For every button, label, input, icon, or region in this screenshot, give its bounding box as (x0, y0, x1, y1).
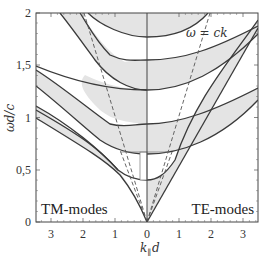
x-tick-tm-1: 1 (112, 227, 118, 241)
te-modes-label: TE-modes (192, 201, 255, 217)
y-tick-1: 1 (25, 111, 31, 125)
y-tick-1-5: 1,5 (16, 58, 31, 72)
x-tick-te-1: 1 (176, 227, 182, 241)
x-tick-tm-2: 2 (80, 227, 86, 241)
x-tick-te-3: 3 (240, 227, 246, 241)
y-tick-0-5: 0,5 (16, 163, 31, 177)
plot-area (36, 13, 258, 222)
light-line-label: ω = ck (186, 26, 227, 40)
gap-marker (140, 152, 147, 180)
tm-modes-label: TM-modes (41, 201, 108, 217)
tm-band-4 (88, 13, 147, 37)
y-tick-2: 2 (25, 6, 31, 20)
y-axis-title: ωd/c (3, 104, 17, 133)
x-tick-0: 0 (144, 227, 150, 241)
x-tick-te-2: 2 (208, 227, 214, 241)
x-axis-title: k∥d (140, 241, 160, 257)
te-band-2 (147, 88, 258, 154)
x-tick-tm-3: 3 (48, 227, 54, 241)
y-tick-0: 0 (25, 215, 31, 229)
band-structure-chart: 0 0,5 1 1,5 2 3 2 1 0 1 2 3 k∥d ωd/c ω =… (0, 0, 267, 260)
